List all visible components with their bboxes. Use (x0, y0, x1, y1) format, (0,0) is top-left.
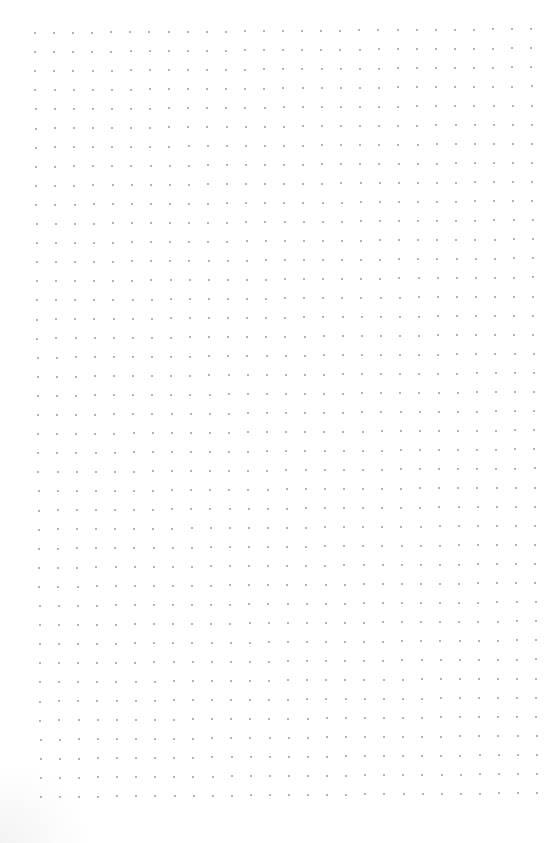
grid-dot (34, 32, 36, 34)
grid-dot (345, 717, 347, 719)
grid-dot (112, 299, 114, 301)
grid-dot (359, 125, 361, 127)
grid-dot (73, 146, 75, 148)
grid-dot (150, 279, 152, 281)
grid-dot (116, 795, 118, 797)
grid-dot (494, 296, 496, 298)
grid-dot (266, 470, 268, 472)
grid-dot (533, 391, 535, 393)
grid-dot (189, 375, 191, 377)
grid-dot (534, 506, 536, 508)
grid-dot (38, 529, 40, 531)
grid-dot (55, 280, 57, 282)
grid-dot (153, 547, 155, 549)
grid-dot (515, 525, 517, 527)
grid-dot (268, 680, 270, 682)
grid-dot (512, 143, 514, 145)
grid-dot (305, 469, 307, 471)
grid-dot (133, 528, 135, 530)
grid-dot (303, 316, 305, 318)
grid-dot (55, 299, 57, 301)
grid-dot (113, 375, 115, 377)
grid-dot (307, 756, 309, 758)
grid-dot (322, 297, 324, 299)
grid-dot (134, 604, 136, 606)
grid-dot (287, 622, 289, 624)
grid-dot (363, 660, 365, 662)
grid-dot (226, 241, 228, 243)
grid-dot (439, 640, 441, 642)
grid-dot (74, 299, 76, 301)
grid-dot (248, 584, 250, 586)
grid-dot (226, 164, 228, 166)
grid-dot (536, 754, 538, 756)
grid-dot (303, 297, 305, 299)
grid-dot (364, 793, 366, 795)
grid-dot (35, 147, 37, 149)
grid-dot (34, 70, 36, 72)
grid-dot (248, 546, 250, 548)
grid-dot (207, 145, 209, 147)
grid-dot (359, 163, 361, 165)
grid-dot (493, 219, 495, 221)
grid-dot (287, 603, 289, 605)
grid-dot (110, 31, 112, 33)
grid-dot (284, 221, 286, 223)
grid-dot (285, 374, 287, 376)
grid-dot (438, 411, 440, 413)
grid-dot (397, 144, 399, 146)
grid-dot (359, 49, 361, 51)
grid-dot (399, 392, 401, 394)
grid-dot (173, 757, 175, 759)
grid-dot (284, 297, 286, 299)
grid-dot (152, 509, 154, 511)
grid-dot (383, 679, 385, 681)
grid-dot (474, 124, 476, 126)
grid-dot (475, 296, 477, 298)
grid-dot (206, 88, 208, 90)
grid-dot (226, 222, 228, 224)
grid-dot (264, 145, 266, 147)
grid-dot (455, 124, 457, 126)
grid-dot (268, 718, 270, 720)
grid-dot (285, 412, 287, 414)
grid-dot (286, 488, 288, 490)
grid-dot (515, 582, 517, 584)
grid-dot (436, 143, 438, 145)
grid-dot (55, 337, 57, 339)
grid-dot (321, 87, 323, 89)
grid-dot (92, 165, 94, 167)
dot-grid (0, 0, 550, 843)
grid-dot (326, 736, 328, 738)
grid-dot (230, 661, 232, 663)
grid-dot (75, 376, 77, 378)
grid-dot (130, 89, 132, 91)
grid-dot (476, 487, 478, 489)
grid-dot (379, 278, 381, 280)
grid-dot (284, 336, 286, 338)
grid-dot (151, 356, 153, 358)
grid-dot (76, 471, 78, 473)
grid-dot (191, 642, 193, 644)
grid-dot (248, 508, 250, 510)
grid-dot (76, 547, 78, 549)
grid-dot (267, 565, 269, 567)
grid-dot (131, 280, 133, 282)
grid-dot (115, 643, 117, 645)
grid-dot (226, 183, 228, 185)
grid-dot (37, 395, 39, 397)
grid-dot (457, 392, 459, 394)
grid-dot (54, 204, 56, 206)
grid-dot (531, 85, 533, 87)
grid-dot (531, 162, 533, 164)
grid-dot (493, 124, 495, 126)
grid-dot (249, 718, 251, 720)
grid-dot (39, 643, 41, 645)
grid-dot (227, 298, 229, 300)
grid-dot (378, 68, 380, 70)
grid-dot (535, 697, 537, 699)
grid-dot (531, 143, 533, 145)
grid-dot (211, 737, 213, 739)
grid-dot (115, 566, 117, 568)
grid-dot (76, 567, 78, 569)
